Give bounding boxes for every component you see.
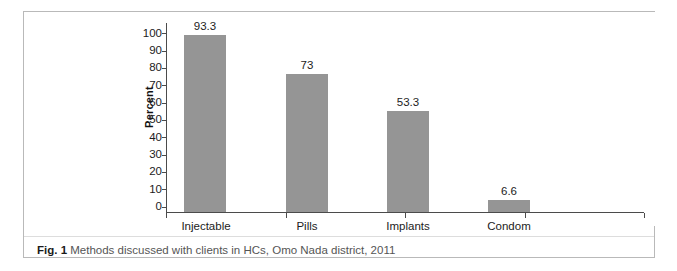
x-tickmark-3 (525, 213, 526, 218)
y-tick-0: 0 (112, 201, 162, 212)
caption-text: Methods discussed with clients in HCs, O… (70, 244, 395, 256)
x-tickmark-4 (644, 213, 645, 218)
y-tick-20: 20 (112, 166, 162, 177)
caption-separator (24, 236, 654, 237)
x-tickmark-1 (286, 213, 287, 218)
x-label-pills: Pills (272, 220, 342, 233)
y-tick-50: 50 (112, 114, 162, 125)
bar-implants[interactable] (387, 111, 429, 212)
bar-value-injectable: 93.3 (175, 20, 235, 32)
x-label-condom: Condom (474, 220, 544, 233)
bar-value-condom: 6.6 (479, 185, 539, 197)
y-tick-90: 90 (112, 45, 162, 56)
bar-condom[interactable] (488, 200, 530, 212)
y-tick-10: 10 (112, 184, 162, 195)
bar-pills[interactable] (286, 74, 328, 212)
x-tickmark-0 (166, 213, 167, 218)
y-tick-70: 70 (112, 80, 162, 91)
figure-caption: Fig. 1 Methods discussed with clients in… (37, 243, 395, 257)
x-tickmark-2 (405, 213, 406, 218)
caption-label: Fig. 1 (37, 244, 67, 256)
figure-container: Percent 100 90 80 70 60 50 40 30 20 10 0 (23, 11, 655, 258)
y-tick-40: 40 (112, 132, 162, 143)
bar-value-implants: 53.3 (378, 96, 438, 108)
x-label-implants: Implants (373, 220, 443, 233)
bar-injectable[interactable] (184, 35, 226, 212)
y-tick-60: 60 (112, 97, 162, 108)
y-tick-80: 80 (112, 62, 162, 73)
chart-plot-area: Percent 100 90 80 70 60 50 40 30 20 10 0 (24, 12, 656, 226)
bar-value-pills: 73 (277, 59, 337, 71)
y-axis-line (166, 23, 167, 213)
y-tick-100: 100 (112, 28, 162, 39)
x-label-injectable: Injectable (171, 220, 241, 233)
y-tick-30: 30 (112, 149, 162, 160)
